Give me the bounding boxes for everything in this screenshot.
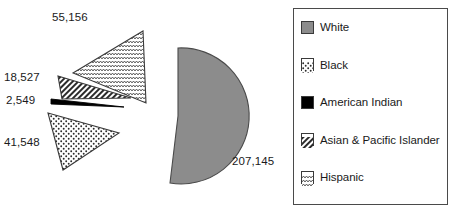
slice-value-label-white: 207,145 [232,155,274,167]
slice-value-label-asian-pacific-islander: 18,527 [4,71,40,83]
wavy-swatch-icon [301,171,314,184]
solid-gray-swatch-icon [301,21,314,34]
diagonal-hatch-pattern-icon [302,137,313,148]
legend-item-asian-pacific-islander[interactable]: Asian & Pacific Islander [301,133,447,147]
slice-value-label-black: 41,548 [4,136,40,148]
legend-label-white: White [320,21,349,33]
legend-label-american-indian: American Indian [320,96,402,108]
legend: White Black American Indian [293,8,448,205]
slice-value-label-hispanic: 55,156 [52,11,88,23]
pie-slice-american-indian[interactable] [51,99,124,107]
pie-chart-figure: 55,156 18,527 2,549 41,548 207,145 White… [0,0,454,213]
legend-item-white[interactable]: White [301,20,447,34]
legend-item-american-indian[interactable]: American Indian [301,95,447,109]
legend-label-black: Black [320,59,348,71]
dotted-pattern-icon [302,62,313,73]
solid-black-swatch-icon [301,96,314,109]
pie-slice-black[interactable] [48,113,119,170]
legend-label-hispanic: Hispanic [320,171,364,183]
legend-list: White Black American Indian [294,9,447,204]
legend-label-asian-pacific-islander: Asian & Pacific Islander [320,134,440,146]
pie-svg [0,0,290,213]
legend-item-black[interactable]: Black [301,58,447,72]
diagonal-hatch-swatch-icon [301,133,314,146]
legend-item-hispanic[interactable]: Hispanic [301,170,447,184]
wavy-pattern-icon [302,175,313,186]
pie-plot-area: 55,156 18,527 2,549 41,548 207,145 [0,0,290,213]
dotted-swatch-icon [301,58,314,71]
slice-value-label-american-indian: 2,549 [6,94,35,106]
